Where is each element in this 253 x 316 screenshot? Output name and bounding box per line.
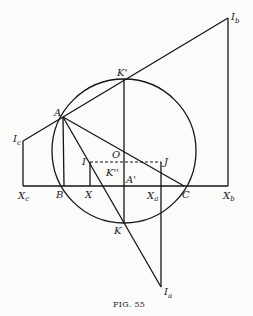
label-b: B xyxy=(55,189,63,200)
label-k: K xyxy=(113,225,122,236)
label-ib: Ib xyxy=(230,11,240,25)
label-x: X xyxy=(84,189,93,200)
line-a-ia xyxy=(63,117,161,287)
label-xa: Xa xyxy=(146,190,158,203)
line-ic-ib xyxy=(23,18,228,141)
line-a-b xyxy=(63,117,64,186)
label-o: O xyxy=(112,149,120,160)
label-ic: Ic xyxy=(12,133,21,147)
label-a: A xyxy=(53,107,61,118)
label-k-double-prime: K'' xyxy=(105,167,119,178)
label-j: J xyxy=(162,156,169,167)
label-xb: Xb xyxy=(222,190,235,203)
figure-caption: FIG. 55 xyxy=(113,300,145,309)
label-xc: Xc xyxy=(17,190,29,203)
label-k-prime: K' xyxy=(116,67,127,78)
label-ia: Ia xyxy=(163,286,172,300)
label-c: C xyxy=(182,189,190,200)
label-a-prime: A' xyxy=(125,174,136,185)
geometry-figure: Ib K' A Ic O I J K'' A' Xc B X Xa C Xb K… xyxy=(0,0,253,316)
